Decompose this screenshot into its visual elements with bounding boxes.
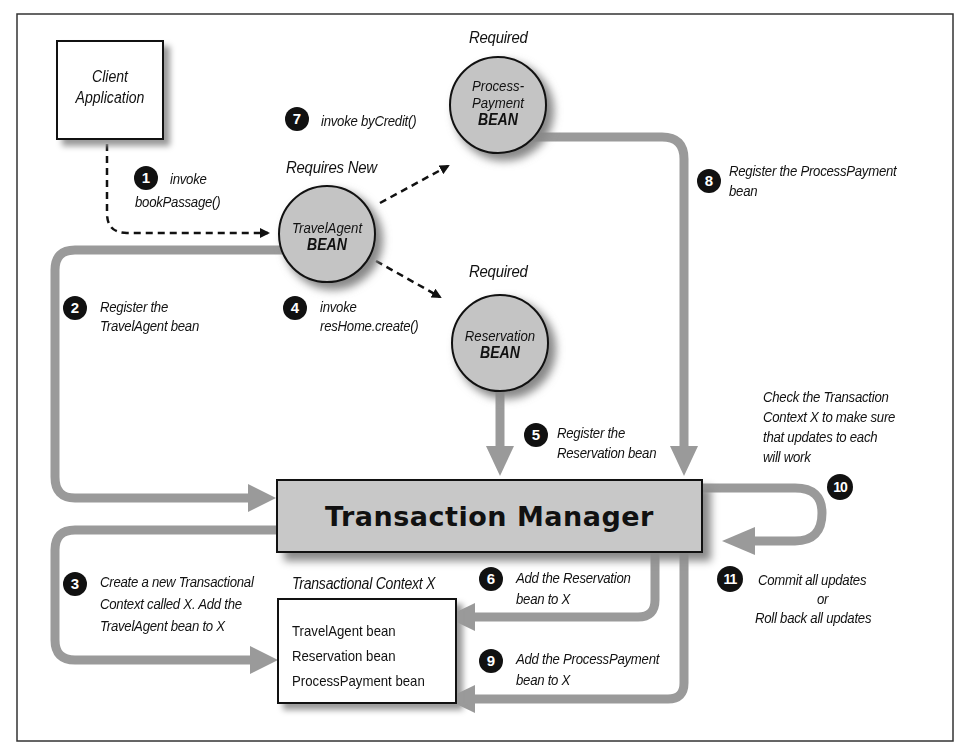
- processpayment-attribute: Required: [469, 29, 528, 46]
- step-badge-6: 6: [479, 567, 503, 591]
- context-item: Reservation bean: [292, 643, 425, 668]
- transaction-manager-box: Transaction Manager: [276, 479, 703, 553]
- step-5-line1: Register the: [557, 424, 625, 441]
- step-10-line4: will work: [763, 448, 810, 465]
- step-1-line2: bookPassage(): [135, 193, 220, 210]
- travelagent-name: TravelAgent: [292, 219, 362, 236]
- reservation-name: Reservation: [465, 327, 535, 344]
- reservation-attribute: Required: [469, 263, 528, 280]
- dashed-arrow-step-7: [380, 166, 448, 203]
- travelagent-bean-label: TravelAgent BEAN: [285, 219, 369, 253]
- step-badge-4: 4: [283, 296, 307, 320]
- context-items: TravelAgent bean Reservation bean Proces…: [292, 618, 425, 693]
- step-4-line2: resHome.create(): [320, 317, 418, 334]
- step-6-line1: Add the Reservation: [516, 569, 631, 586]
- travelagent-type: BEAN: [285, 236, 369, 253]
- processpayment-name-line1: Process-: [456, 77, 540, 94]
- arrow-step-8: [508, 137, 684, 446]
- arrow-step-2: [55, 250, 284, 498]
- step-10-line1: Check the Transaction: [763, 388, 889, 405]
- step-11-line1: Commit all updates: [758, 571, 866, 588]
- step-6-line2: bean to X: [516, 590, 570, 607]
- arrowhead-3: [250, 646, 278, 674]
- processpayment-name-line2: Payment: [456, 94, 540, 111]
- step-badge-1: 1: [134, 166, 158, 190]
- step-9-line2: bean to X: [516, 671, 570, 688]
- step-badge-8: 8: [697, 169, 721, 193]
- step-9-line1: Add the ProcessPayment: [516, 650, 659, 667]
- step-1-line1: invoke: [170, 170, 207, 187]
- dashed-arrow-step-4: [376, 261, 440, 297]
- transaction-manager-label: Transaction Manager: [325, 501, 654, 532]
- step-5-line2: Reservation bean: [557, 444, 656, 461]
- step-3-line2: Context called X. Add the: [100, 595, 242, 612]
- step-3-line3: TravelAgent bean to X: [100, 617, 225, 634]
- step-10-line2: Context X to make sure: [763, 408, 895, 425]
- step-badge-9: 9: [479, 649, 503, 673]
- travelagent-attribute: Requires New: [286, 159, 377, 176]
- arrow-step-10-11: [700, 488, 822, 541]
- step-2-line2: TravelAgent bean: [100, 317, 199, 334]
- step-7-line1: invoke byCredit(): [321, 112, 416, 129]
- context-title: Transactional Context X: [292, 575, 435, 592]
- arrowhead-11: [722, 527, 755, 555]
- arrowhead-5: [486, 446, 514, 476]
- step-8-line2: bean: [729, 182, 757, 199]
- client-application-box: Client Application: [56, 40, 164, 140]
- context-item: ProcessPayment bean: [292, 668, 425, 693]
- step-badge-5: 5: [524, 423, 548, 447]
- step-8-line1: Register the ProcessPayment: [729, 162, 896, 179]
- context-item: TravelAgent bean: [292, 618, 425, 643]
- step-badge-7: 7: [285, 107, 309, 131]
- reservation-type: BEAN: [458, 344, 542, 361]
- client-label-line2: Application: [64, 87, 156, 108]
- step-3-line1: Create a new Transactional: [100, 573, 254, 590]
- step-2-line1: Register the: [100, 298, 168, 315]
- step-badge-11: 11: [717, 566, 743, 592]
- processpayment-bean-label: Process- Payment BEAN: [456, 77, 540, 128]
- step-4-line1: invoke: [320, 298, 357, 315]
- step-badge-3: 3: [63, 572, 87, 596]
- processpayment-type: BEAN: [456, 111, 540, 128]
- step-11-line3: Roll back all updates: [755, 609, 871, 626]
- step-badge-2: 2: [63, 296, 87, 320]
- reservation-bean-label: Reservation BEAN: [458, 327, 542, 361]
- client-label-line1: Client: [64, 66, 156, 87]
- step-badge-10: 10: [827, 474, 853, 500]
- arrowhead-8: [670, 446, 698, 476]
- step-11-line2: or: [817, 590, 828, 607]
- arrowhead-2: [248, 484, 276, 512]
- step-10-line3: that updates to each: [763, 428, 877, 445]
- dashed-arrow-step-1: [107, 144, 268, 233]
